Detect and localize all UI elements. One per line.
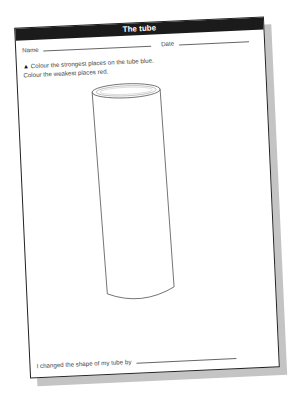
date-field-line[interactable] — [179, 41, 249, 45]
footer-answer-line[interactable] — [136, 358, 236, 364]
instruction-2: Colour the weakest places red. — [23, 68, 108, 79]
footer-row: I changed the shape of my tube by — [36, 351, 274, 369]
worksheet: The tube Name Date ▲ Colour the stronges… — [14, 17, 280, 379]
name-field-line[interactable] — [43, 46, 151, 52]
tube-illustration — [88, 77, 178, 310]
instruction-1-text: Colour the strongest places on the tube … — [31, 57, 154, 70]
date-label: Date — [161, 40, 174, 48]
name-label: Name — [22, 46, 39, 54]
triangle-icon: ▲ — [23, 62, 29, 69]
footer-prompt: I changed the shape of my tube by — [36, 358, 131, 369]
worksheet-page: The tube Name Date ▲ Colour the stronges… — [14, 17, 280, 379]
